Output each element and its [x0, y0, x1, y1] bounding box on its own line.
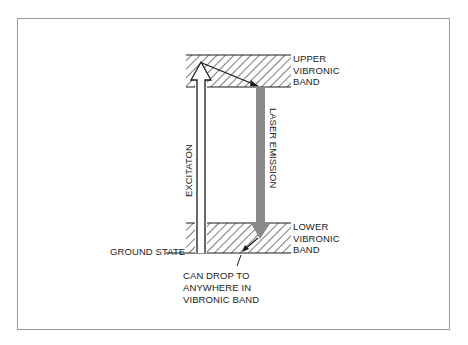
laser-emission-label: LASER EMISSION	[268, 108, 279, 188]
upper-band-label: UPPER VIBRONIC BAND	[293, 53, 340, 88]
drop-note-line: VIBRONIC BAND	[183, 294, 259, 306]
lower-band-label-line: VIBRONIC	[293, 233, 340, 245]
lower-band-label: LOWER VIBRONIC BAND	[293, 221, 340, 256]
note-leader-line	[237, 255, 241, 266]
drop-note-line: CAN DROP TO	[183, 270, 259, 282]
lower-band-label-line: LOWER	[293, 221, 340, 233]
drop-note: CAN DROP TO ANYWHERE IN VIBRONIC BAND	[183, 270, 259, 306]
excitation-label: EXCITATON	[183, 144, 194, 197]
upper-band-label-line: VIBRONIC	[293, 65, 340, 77]
upper-band-label-line: UPPER	[293, 53, 340, 65]
drop-note-line: ANYWHERE IN	[183, 282, 259, 294]
upper-band-label-line: BAND	[293, 76, 340, 88]
ground-state-label: GROUND STATE	[110, 246, 185, 258]
lower-band-label-line: BAND	[293, 244, 340, 256]
